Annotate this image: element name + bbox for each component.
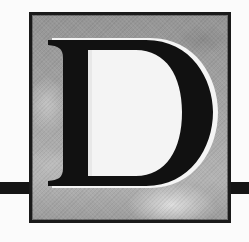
drop-cap-letter-d bbox=[0, 0, 249, 242]
letter-d-stem-highlight bbox=[88, 50, 92, 176]
drop-cap-illustration bbox=[0, 0, 249, 242]
